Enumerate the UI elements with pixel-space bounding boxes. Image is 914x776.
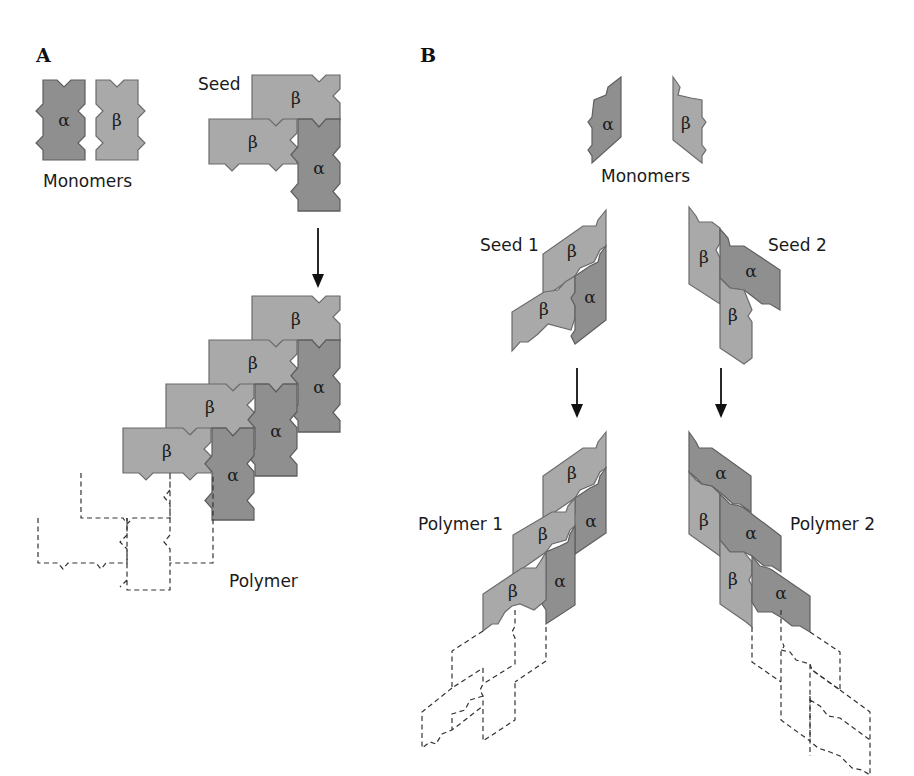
- ghost-subunits-p2: [752, 610, 870, 775]
- assembly-diagram: A α β Monomers Seed β β α β: [0, 0, 914, 776]
- beta-symbol: β: [508, 581, 518, 601]
- beta-symbol: β: [728, 305, 738, 325]
- monomer-beta-b: β: [673, 77, 706, 163]
- monomer-alpha-b: α: [588, 77, 621, 163]
- polymer-1-label: Polymer 1: [418, 514, 503, 534]
- beta-symbol: β: [699, 510, 709, 530]
- monomer-alpha-a: α: [36, 80, 85, 160]
- alpha-symbol: α: [775, 583, 787, 603]
- seed-2-label: Seed 2: [768, 235, 827, 255]
- panel-label-b: B: [420, 44, 436, 66]
- ghost-subunits-a: [38, 473, 213, 590]
- seed-label-a: Seed: [198, 74, 241, 94]
- beta-symbol: β: [112, 110, 122, 130]
- beta-symbol: β: [699, 247, 709, 267]
- polymer-a: β β α β α β α: [38, 296, 340, 590]
- alpha-symbol: α: [270, 421, 282, 441]
- alpha-symbol: α: [602, 114, 614, 134]
- beta-symbol: β: [248, 132, 258, 152]
- beta-symbol: β: [681, 113, 691, 133]
- alpha-symbol: α: [554, 571, 566, 591]
- alpha-symbol: α: [745, 261, 757, 281]
- beta-symbol: β: [162, 441, 172, 461]
- beta-symbol: β: [538, 524, 548, 544]
- seed-1: β β α: [512, 210, 606, 351]
- monomer-beta-a: β: [96, 80, 145, 160]
- monomers-label-a: Monomers: [43, 171, 132, 191]
- beta-symbol: β: [291, 309, 301, 329]
- panel-label-a: A: [35, 44, 51, 66]
- alpha-symbol: α: [313, 158, 325, 178]
- polymer-2-label: Polymer 2: [790, 514, 875, 534]
- polymer-label-a: Polymer: [229, 571, 298, 591]
- alpha-symbol: α: [585, 511, 597, 531]
- alpha-symbol: α: [227, 465, 239, 485]
- alpha-symbol: α: [715, 463, 727, 483]
- polymer-2: β α α β α: [689, 432, 870, 775]
- beta-symbol: β: [567, 463, 577, 483]
- arrow-seed1-to-polymer1: [571, 368, 583, 418]
- alpha-symbol: α: [745, 523, 757, 543]
- seed-1-label: Seed 1: [480, 235, 539, 255]
- beta-symbol: β: [205, 397, 215, 417]
- beta-symbol: β: [539, 299, 549, 319]
- seed-a: β β α: [209, 75, 340, 211]
- beta-symbol: β: [248, 353, 258, 373]
- seed-2: β α β: [689, 207, 780, 364]
- alpha-symbol: α: [58, 110, 70, 130]
- monomers-label-b: Monomers: [601, 166, 690, 186]
- beta-symbol: β: [291, 88, 301, 108]
- beta-symbol: β: [728, 569, 738, 589]
- arrow-seed2-to-polymer2: [715, 368, 727, 418]
- alpha-symbol: α: [313, 377, 325, 397]
- beta-symbol: β: [567, 241, 577, 261]
- polymer-1: β α β α β: [422, 432, 606, 748]
- arrow-seed-to-polymer: [312, 228, 324, 288]
- alpha-symbol: α: [584, 287, 596, 307]
